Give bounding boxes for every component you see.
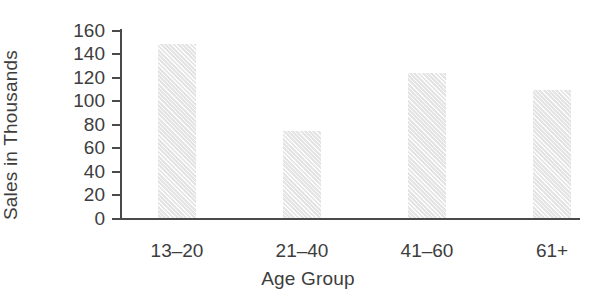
y-tick-label-100: 100	[45, 91, 105, 110]
plot-area	[120, 30, 580, 218]
y-axis-title: Sales in Thousands	[0, 11, 22, 259]
x-axis-line	[112, 218, 580, 220]
y-tick-text: 160	[45, 21, 105, 40]
y-tick-label-20: 20	[45, 185, 105, 204]
y-tick-label-160: 160	[45, 21, 105, 40]
bar-chart: Sales in Thousands 160 140 120 100 80 60…	[0, 0, 616, 300]
y-tick-text: 100	[45, 91, 105, 110]
y-tick-text: 40	[45, 162, 105, 181]
bar-41-60	[408, 73, 446, 218]
y-tick-label-0: 0	[45, 209, 105, 228]
y-tick-label-80: 80	[45, 115, 105, 134]
y-tick-text: 20	[45, 185, 105, 204]
y-tick-text: 0	[45, 209, 105, 228]
y-tick-label-120: 120	[45, 68, 105, 87]
y-tick-label-40: 40	[45, 162, 105, 181]
x-tick-label-2: 41–60	[357, 240, 497, 262]
y-tick-text: 80	[45, 115, 105, 134]
bar-21-40	[283, 131, 321, 218]
y-tick-label-140: 140	[45, 44, 105, 63]
y-tick-label-60: 60	[45, 138, 105, 157]
y-tick-text: 60	[45, 138, 105, 157]
x-tick-label-3: 61+	[482, 240, 616, 262]
x-tick-label-1: 21–40	[232, 240, 372, 262]
y-tick-text: 120	[45, 68, 105, 87]
x-tick-label-0: 13–20	[107, 240, 247, 262]
x-axis-title: Age Group	[0, 268, 616, 290]
bar-13-20	[158, 44, 196, 218]
bar-61-plus	[533, 90, 571, 218]
y-tick-text: 140	[45, 44, 105, 63]
